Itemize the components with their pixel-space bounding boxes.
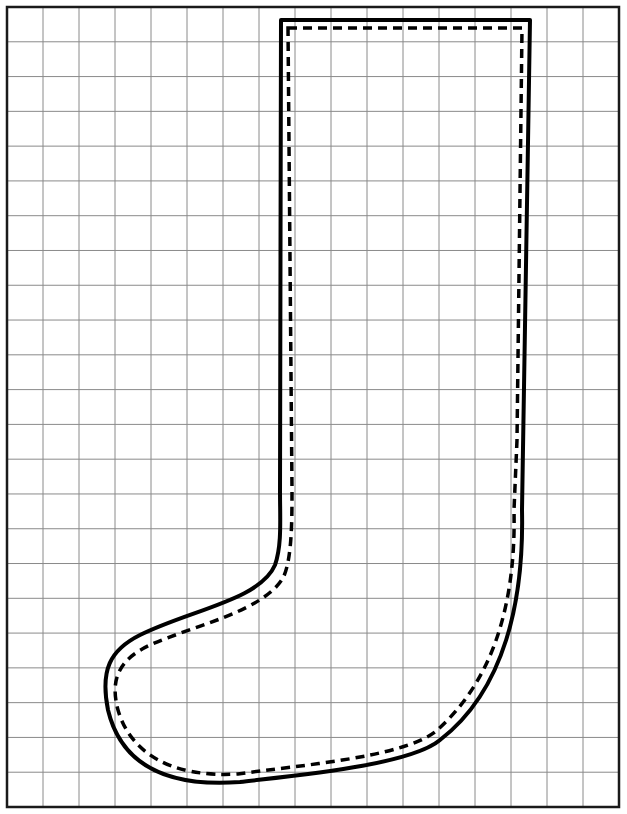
page-background (0, 0, 627, 814)
stocking-pattern-diagram (0, 0, 627, 814)
